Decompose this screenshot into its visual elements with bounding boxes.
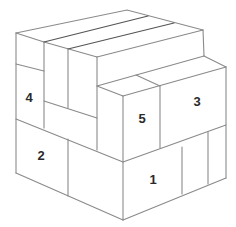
block-label-2: 2 <box>37 148 44 163</box>
block-label-5: 5 <box>138 111 145 126</box>
block-label-1: 1 <box>149 172 156 187</box>
block-label-4: 4 <box>25 90 33 105</box>
cube-diagram: 1 2 3 4 5 <box>0 0 236 227</box>
block-label-3: 3 <box>193 94 200 109</box>
block-labels: 1 2 3 4 5 <box>25 90 200 187</box>
cube-edges <box>16 10 226 220</box>
